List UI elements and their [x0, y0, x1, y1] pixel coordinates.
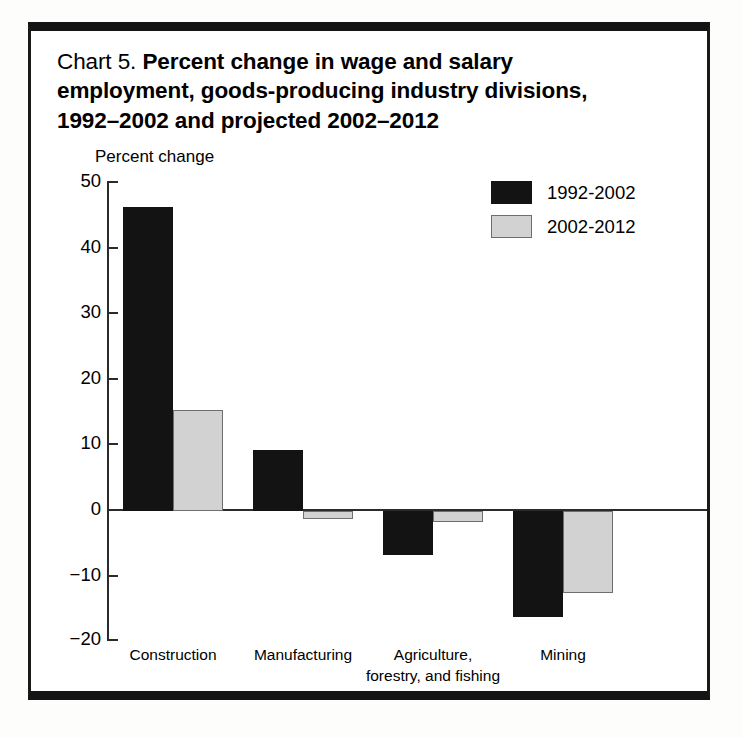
legend-swatch-light	[491, 215, 532, 238]
bar-manufacturing-2002-2012	[303, 511, 353, 519]
figure-border-box: Chart 5. Percent change in wage and sala…	[28, 22, 710, 700]
bar-manufacturing-1992-2002	[253, 450, 303, 511]
bar-construction-2002-2012	[173, 410, 223, 511]
page-root: Chart 5. Percent change in wage and sala…	[0, 0, 743, 738]
bar-agriculture-1992-2002	[383, 511, 433, 555]
bar-group-container	[31, 31, 713, 709]
legend-label-1992-2002: 1992-2002	[547, 182, 635, 204]
plot-area: Percent change 50 40 30 20 10 0 −10 −20	[31, 31, 713, 709]
x-label-mining: Mining	[483, 645, 643, 666]
legend-item-1992-2002[interactable]: 1992-2002	[491, 181, 635, 204]
legend-item-2002-2012[interactable]: 2002-2012	[491, 215, 635, 238]
bar-construction-1992-2002	[123, 207, 173, 511]
chart-legend: 1992-2002 2002-2012	[491, 181, 635, 249]
bar-mining-1992-2002	[513, 511, 563, 617]
legend-label-2002-2012: 2002-2012	[547, 216, 635, 238]
bar-agriculture-2002-2012	[433, 511, 483, 522]
legend-swatch-dark	[491, 181, 532, 204]
x-axis-category-labels: Construction Manufacturing Agriculture, …	[31, 645, 713, 705]
bar-mining-2002-2012	[563, 511, 613, 593]
